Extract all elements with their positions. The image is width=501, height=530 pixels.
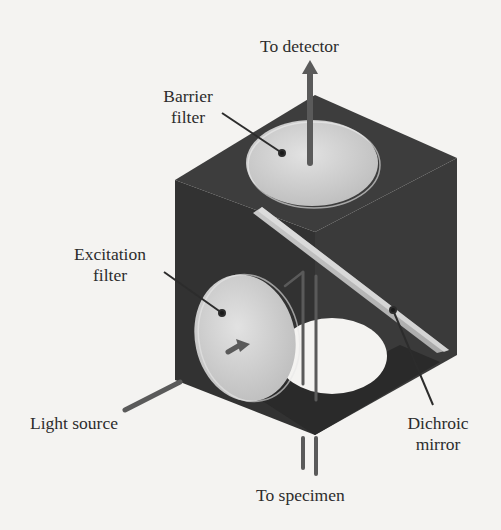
label-dichroic-mirror-line1: Dichroic: [398, 413, 478, 434]
label-excitation-filter: Excitation filter: [64, 244, 156, 286]
label-excitation-filter-line1: Excitation: [64, 244, 156, 265]
label-excitation-filter-line2: filter: [64, 265, 156, 286]
beam-light-source: [125, 382, 180, 410]
label-barrier-filter-line2: filter: [152, 107, 224, 128]
label-dichroic-mirror: Dichroic mirror: [398, 413, 478, 455]
label-to-specimen: To specimen: [256, 485, 345, 506]
label-barrier-filter-line1: Barrier: [152, 86, 224, 107]
label-light-source: Light source: [30, 413, 118, 434]
arrow-up-icon: [302, 60, 318, 74]
label-to-detector: To detector: [260, 36, 339, 57]
label-dichroic-mirror-line2: mirror: [398, 434, 478, 455]
label-barrier-filter: Barrier filter: [152, 86, 224, 128]
